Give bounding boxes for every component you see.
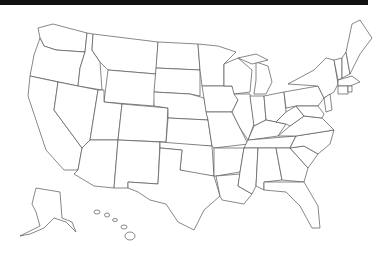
state-ks[interactable]	[166, 118, 212, 146]
state-nd[interactable]	[156, 42, 200, 70]
state-nm[interactable]	[114, 140, 160, 188]
state-ri[interactable]	[348, 86, 352, 92]
state-mt[interactable]	[92, 34, 158, 74]
state-fl[interactable]	[264, 182, 320, 228]
state-wy[interactable]	[104, 70, 156, 106]
state-sd[interactable]	[154, 68, 200, 96]
state-ak[interactable]	[20, 188, 76, 236]
state-hi[interactable]	[94, 210, 135, 240]
state-ct[interactable]	[338, 86, 348, 94]
state-ia[interactable]	[202, 86, 238, 112]
state-me[interactable]	[346, 20, 372, 74]
state-co[interactable]	[118, 104, 168, 142]
state-mi[interactable]	[254, 62, 272, 94]
states	[28, 20, 372, 230]
us-map	[0, 0, 392, 256]
state-ar[interactable]	[214, 148, 244, 176]
state-pa[interactable]	[284, 86, 324, 108]
